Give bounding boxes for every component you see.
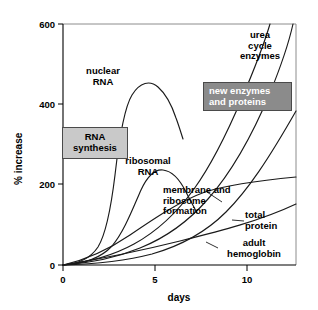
annotation-membrane-and-ribosome-formation: membrane and ribosome formation (163, 185, 249, 217)
y-tick-label-200: 200 (39, 179, 55, 190)
annotation-adult-hemoglobin: adult hemoglobin (215, 238, 293, 259)
x-axis-title: days (168, 292, 191, 303)
x-tick-label-10: 10 (242, 274, 253, 285)
x-tick-label-5: 5 (152, 274, 158, 285)
group-label-new-enzymes-and-proteins: new enzymes and proteins (203, 82, 292, 111)
leader-total-protein (232, 220, 244, 221)
x-tick-label-0: 0 (60, 274, 65, 285)
annotation-ribosomal-rna: ribosomal RNA (113, 156, 183, 177)
group-label-rna-synthesis: RNA synthesis (62, 127, 128, 159)
annotation-total-protein: total protein (245, 210, 297, 231)
annotation-urea-cycle-enzymes: urea cycle enzymes (228, 30, 292, 62)
figure-container: 600 400 200 0 0 5 10 % increase days nuc… (0, 0, 318, 310)
y-tick-label-0: 0 (50, 260, 55, 271)
y-axis-title: % increase (13, 132, 24, 185)
y-tick-label-400: 400 (39, 99, 55, 110)
y-tick-label-600: 600 (39, 19, 55, 30)
annotation-nuclear-rna: nuclear RNA (66, 66, 140, 87)
